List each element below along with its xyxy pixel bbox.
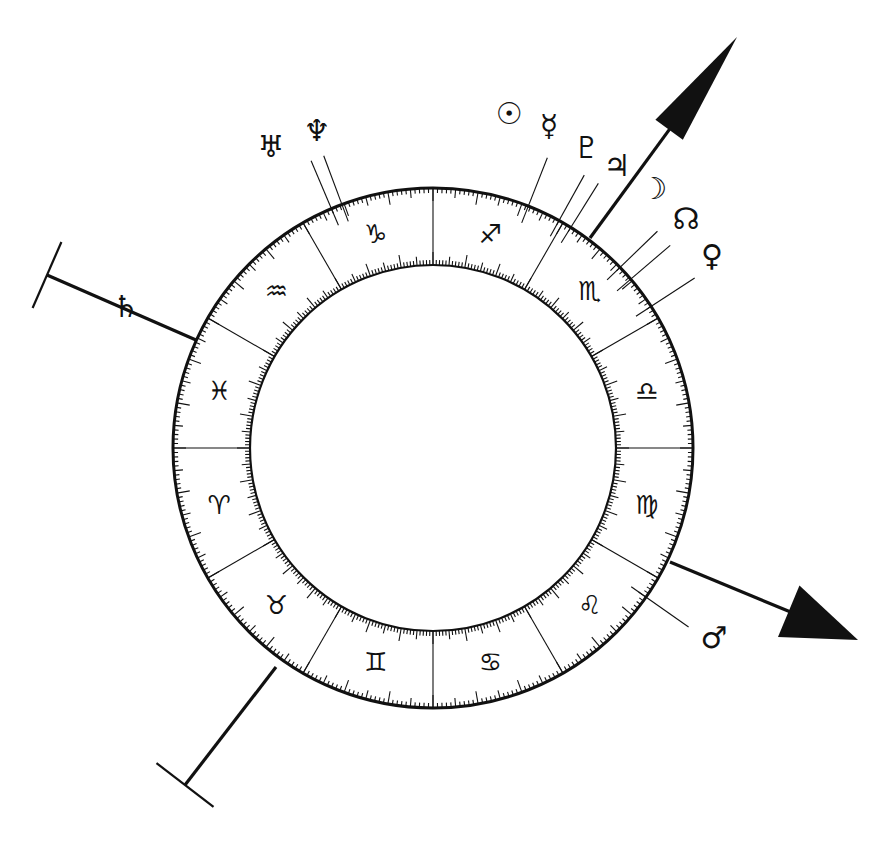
inner-tick (410, 261, 411, 266)
inner-tick (510, 274, 514, 282)
sign-divider (208, 318, 275, 357)
inner-tick (247, 473, 252, 474)
inner-tick (615, 425, 620, 426)
outer-tick (676, 491, 689, 493)
outer-tick (610, 631, 613, 635)
outer-tick (182, 513, 191, 515)
inner-tick (555, 308, 558, 312)
inner-tick (345, 610, 347, 614)
outer-tick (464, 190, 465, 195)
outer-tick (176, 412, 181, 413)
outer-tick (577, 235, 582, 242)
inner-tick (560, 580, 563, 584)
inner-tick (577, 332, 581, 335)
inner-tick (585, 550, 589, 553)
inner-tick (595, 360, 599, 362)
inner-tick (416, 257, 417, 266)
inner-tick (248, 495, 257, 497)
inner-tick (274, 545, 278, 548)
inner-tick (307, 298, 315, 308)
inner-tick (342, 284, 344, 288)
inner-tick (449, 630, 450, 639)
planet-line (550, 175, 584, 236)
outer-tick (676, 403, 689, 405)
inner-tick (569, 322, 573, 325)
outer-tick (240, 274, 244, 277)
inner-tick (614, 473, 619, 474)
outer-tick (455, 698, 456, 707)
inner-tick (307, 584, 310, 588)
inner-tick (551, 298, 559, 308)
inner-tick (298, 575, 302, 578)
outer-tick (344, 680, 348, 692)
inner-tick (293, 322, 297, 325)
inner-tick (548, 302, 551, 306)
outer-tick (182, 381, 191, 383)
inner-tick (265, 363, 269, 365)
inner-tick (328, 600, 331, 604)
inner-tick (240, 480, 253, 482)
inner-tick (407, 262, 408, 267)
inner-tick (345, 282, 347, 286)
inner-tick (328, 292, 331, 296)
sign-cancer-icon: ♋ (479, 647, 502, 677)
outer-tick (406, 702, 407, 707)
outer-tick (197, 554, 205, 558)
inner-tick (593, 357, 597, 359)
inner-tick (265, 531, 269, 533)
outer-tick (473, 700, 474, 705)
outer-tick (234, 281, 244, 289)
inner-tick (516, 611, 518, 615)
inner-tick (247, 422, 252, 423)
sun-icon: ☉ (496, 96, 523, 131)
outer-tick (246, 625, 250, 628)
inner-tick (404, 262, 405, 267)
inner-tick (551, 588, 559, 598)
inner-tick (522, 608, 524, 612)
outer-tick (197, 338, 205, 342)
inner-tick (530, 603, 533, 607)
inner-tick (480, 625, 482, 634)
planet-line (607, 231, 657, 280)
outer-tick (665, 359, 677, 363)
inner-tick (399, 628, 401, 641)
inner-tick (590, 351, 594, 354)
inner-tick (383, 263, 385, 272)
inner-tick (255, 387, 260, 389)
inner-tick (465, 628, 467, 641)
outer-tick (468, 191, 469, 196)
outer-tick (623, 274, 627, 277)
inner-tick (522, 284, 524, 288)
sign-divider (525, 223, 564, 290)
inner-tick (575, 563, 579, 566)
inner-tick (296, 573, 300, 576)
outer-tick (685, 407, 690, 408)
inner-tick (615, 467, 620, 468)
inner-tick (305, 582, 308, 586)
inner-tick (613, 480, 626, 482)
inner-tick (315, 590, 318, 594)
inner-tick (546, 300, 549, 304)
outer-tick (685, 488, 690, 489)
outer-tick (592, 249, 600, 259)
inner-tick (527, 605, 530, 609)
inner-tick (307, 588, 315, 598)
inner-tick (560, 313, 563, 317)
inner-tick (615, 428, 620, 429)
inner-tick (247, 477, 252, 478)
inner-tick (317, 300, 320, 304)
outer-tick (473, 191, 474, 196)
inner-tick (416, 630, 417, 639)
mc-arrow-shaft (670, 562, 792, 613)
outer-tick (410, 189, 411, 198)
outer-tick (517, 204, 521, 216)
outer-tick (246, 267, 250, 270)
outer-tick (177, 403, 190, 405)
outer-tick (660, 554, 668, 558)
mc-arrow-head-icon (778, 585, 858, 640)
inner-tick (614, 477, 619, 478)
venus-icon: ♀ (701, 238, 723, 273)
outer-tick (177, 491, 190, 493)
inner-tick (527, 287, 530, 291)
inner-tick (533, 290, 536, 294)
